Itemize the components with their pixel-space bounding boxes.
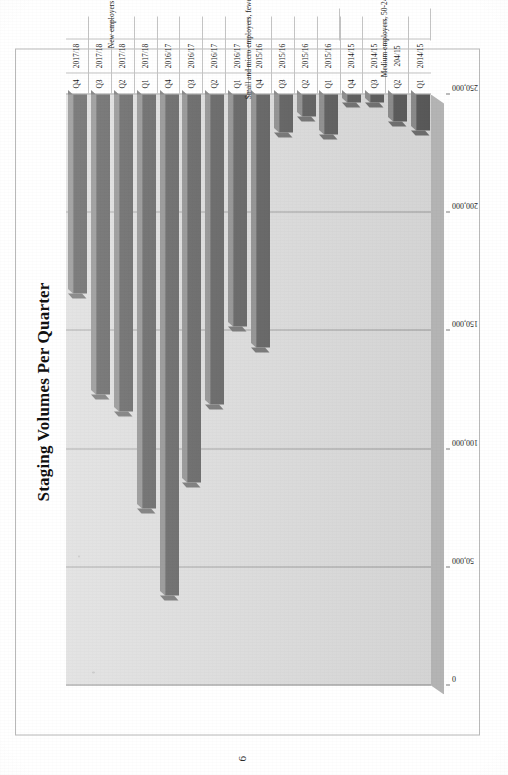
group-axis-label: Medium employers, 50-249 people <box>380 0 389 77</box>
value-tick <box>446 684 450 685</box>
value-tick-label: 50,000 <box>452 555 474 564</box>
bar <box>119 94 133 411</box>
bar <box>256 94 270 347</box>
bar-top-face <box>160 90 165 596</box>
category-quarter-label: Q2 <box>203 72 225 94</box>
group-axis-label: New employers <box>107 0 116 47</box>
group-axis: Medium employers, 50-249 peopleSmall and… <box>66 8 431 40</box>
category-quarter-label: Q3 <box>89 72 111 94</box>
bar-top-face <box>319 90 324 134</box>
bar <box>370 94 384 102</box>
category-year-label: 2016/17 <box>158 38 180 72</box>
bar <box>324 94 338 134</box>
bar <box>73 94 87 293</box>
bar-side-face <box>205 404 224 409</box>
value-tick-label: 100,000 <box>452 437 478 446</box>
category-quarter-label: Q2 <box>295 72 317 94</box>
chart-title: Staging Volumes Per Quarter <box>34 49 54 734</box>
bar-side-face <box>114 411 133 416</box>
bar-side-face <box>68 293 87 298</box>
category-quarter-label: Q1 <box>135 72 157 94</box>
scanned-page: 6 Staging Volumes Per Quarter 050,000100… <box>0 0 508 775</box>
gridline <box>66 566 431 567</box>
category-quarter-label: Q4 <box>158 72 180 94</box>
page-number: 6 <box>236 756 248 762</box>
plot-floor <box>431 94 444 694</box>
category-year-label: 2014/15 <box>409 38 431 72</box>
bar <box>96 94 110 394</box>
value-tick-label: 200,000 <box>452 200 478 209</box>
bar <box>393 94 407 121</box>
bar-top-face <box>228 90 233 326</box>
value-tick <box>446 566 450 567</box>
value-axis-baseline <box>66 684 431 685</box>
bar-top-face <box>274 90 279 133</box>
value-tick-label: 0 <box>452 673 456 682</box>
category-quarter-label: Q1 <box>409 72 431 94</box>
category-quarter-label: Q4 <box>66 72 88 94</box>
scan-speck <box>78 555 80 557</box>
bar-side-face <box>297 116 316 121</box>
bar <box>347 94 361 102</box>
category-year-label: 2015/16 <box>272 38 294 72</box>
category-year-label: 2016/17 <box>180 38 202 72</box>
value-tick <box>446 211 450 212</box>
plot-area <box>66 94 431 685</box>
bar <box>187 94 201 482</box>
category-year-label: 2017/18 <box>66 38 88 72</box>
bar <box>302 94 316 116</box>
bar-side-face <box>365 102 384 107</box>
bar-top-face <box>68 90 73 293</box>
bar-top-face <box>182 90 187 482</box>
bar-top-face <box>114 90 119 411</box>
bar-top-face <box>205 90 210 404</box>
value-tick-label: 250,000 <box>452 82 478 91</box>
bar-side-face <box>251 347 270 352</box>
bar-side-face <box>274 132 293 137</box>
scan-speck <box>92 671 95 673</box>
value-tick-label: 150,000 <box>452 318 478 327</box>
group-axis-cell: Medium employers, 50-249 people <box>340 8 431 40</box>
category-year-label: 204/15 <box>386 38 408 72</box>
bar-side-face <box>160 595 179 600</box>
bar-top-face <box>251 90 256 347</box>
bar-side-face <box>91 394 110 399</box>
bar <box>165 94 179 595</box>
bar-top-face <box>91 90 96 395</box>
bar-side-face <box>319 134 338 139</box>
bar <box>416 94 430 130</box>
category-quarter-label: Q2 <box>112 72 134 94</box>
chart-frame: Staging Volumes Per Quarter 050,000100,0… <box>15 48 480 735</box>
category-year-label: 2015/16 <box>295 38 317 72</box>
category-quarter-label: Q2 <box>386 72 408 94</box>
category-year-label: 2017/18 <box>135 38 157 72</box>
bar-top-face <box>137 90 142 508</box>
category-year-label: 2014/15 <box>341 38 363 72</box>
gridline <box>66 448 431 449</box>
value-tick <box>446 93 450 94</box>
bar-top-face <box>411 90 416 131</box>
bar <box>233 94 247 326</box>
bar <box>279 94 293 132</box>
plot-wrapper <box>66 94 444 694</box>
group-axis-cell: Small and micro employers, fewer than 50… <box>157 8 340 40</box>
group-axis-label: Small and micro employers, fewer than 50… <box>244 0 253 99</box>
value-tick <box>446 329 450 330</box>
bar-side-face <box>137 508 156 513</box>
value-axis: 050,000100,000150,000200,000250,000 <box>446 94 480 694</box>
bar-side-face <box>342 102 361 107</box>
category-year-label: 2015/16 <box>318 38 340 72</box>
bar-side-face <box>228 326 247 331</box>
category-year-label: 2016/17 <box>203 38 225 72</box>
category-quarter-label: Q3 <box>180 72 202 94</box>
bar-side-face <box>388 121 407 126</box>
value-tick <box>446 448 450 449</box>
category-quarter-label: Q3 <box>272 72 294 94</box>
bar <box>142 94 156 508</box>
bar <box>210 94 224 404</box>
rotated-page-content: 6 Staging Volumes Per Quarter 050,000100… <box>0 0 508 775</box>
group-axis-cell: New employers <box>66 8 157 40</box>
bar-side-face <box>182 482 201 487</box>
category-quarter-label: Q1 <box>318 72 340 94</box>
category-quarter-label: Q4 <box>341 72 363 94</box>
